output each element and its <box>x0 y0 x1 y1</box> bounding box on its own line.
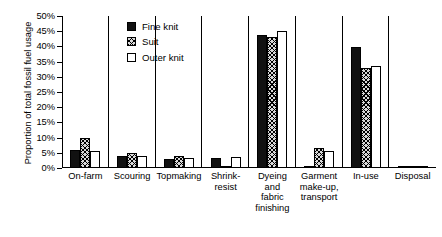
legend-swatch-icon <box>127 37 136 46</box>
bar-group <box>389 16 436 168</box>
bar-cluster <box>70 16 100 168</box>
y-tick-label: 30% <box>36 72 55 82</box>
bar <box>398 166 408 168</box>
bar <box>267 37 277 168</box>
y-tick-label: 35% <box>36 57 55 67</box>
bar <box>70 150 80 168</box>
legend-swatch-icon <box>127 53 136 62</box>
y-tick-label: 5% <box>42 148 55 158</box>
bar <box>277 31 287 168</box>
bar-group <box>296 16 343 168</box>
bar <box>117 156 127 168</box>
x-axis-label: Scouring <box>109 171 156 213</box>
bar-group <box>62 16 109 168</box>
legend-label: Outer knit <box>142 52 184 63</box>
x-axis-label: On-farm <box>62 171 109 213</box>
bar <box>211 158 221 168</box>
y-tick-label: 50% <box>36 11 55 21</box>
legend-item: Outer knit <box>127 52 184 63</box>
x-axis-label: Disposal <box>389 171 436 213</box>
x-axis-label: Garment make-up, transport <box>296 171 343 213</box>
bar-groups <box>62 16 436 168</box>
bar <box>137 156 147 168</box>
legend-swatch-icon <box>127 22 136 31</box>
bar <box>80 138 90 168</box>
x-axis-label: Topmaking <box>156 171 203 213</box>
bar <box>127 153 137 169</box>
bar-group <box>343 16 390 168</box>
plot-area: 0%5%10%15%20%25%30%35%40%45%50% <box>62 16 436 168</box>
y-tick-label: 10% <box>36 133 55 143</box>
y-tick-label: 15% <box>36 117 55 127</box>
legend-item: Fine knit <box>127 21 184 32</box>
bar-cluster <box>304 16 334 168</box>
bar <box>314 148 324 168</box>
y-tick-label: 40% <box>36 41 55 51</box>
bar <box>164 159 174 168</box>
y-tick-mark <box>57 168 62 169</box>
y-axis-title: Proportion of total fossil fuel usage <box>23 8 33 178</box>
y-tick-label: 25% <box>36 87 55 97</box>
bar-cluster <box>257 16 287 168</box>
x-axis-label: In-use <box>343 171 390 213</box>
bar-group <box>249 16 296 168</box>
bar-cluster <box>398 16 428 168</box>
x-axis-label: Shrink- resist <box>202 171 249 213</box>
legend: Fine knitSuitOuter knit <box>127 21 184 63</box>
bar-cluster <box>211 16 241 168</box>
x-axis-label: Dyeing and fabric finishing <box>249 171 296 213</box>
y-tick-label: 0% <box>42 163 55 173</box>
bar <box>90 151 100 168</box>
legend-label: Fine knit <box>142 21 178 32</box>
bar <box>371 66 381 168</box>
bar <box>184 158 194 168</box>
bar <box>257 35 267 168</box>
x-axis-labels: On-farmScouringTopmakingShrink- resistDy… <box>62 171 436 213</box>
bar <box>304 166 314 168</box>
bar-group <box>202 16 249 168</box>
bar <box>408 166 418 168</box>
fossil-fuel-usage-bar-chart: Proportion of total fossil fuel usage 0%… <box>0 0 442 237</box>
legend-item: Suit <box>127 36 184 47</box>
y-tick-label: 20% <box>36 102 55 112</box>
bar <box>221 166 231 168</box>
bar <box>361 68 371 168</box>
bar <box>174 156 184 168</box>
bar <box>231 157 241 168</box>
y-tick-label: 45% <box>36 26 55 36</box>
bar-cluster <box>351 16 381 168</box>
legend-label: Suit <box>142 36 159 47</box>
bar <box>418 166 428 168</box>
bar <box>324 151 334 168</box>
bar <box>351 47 361 168</box>
